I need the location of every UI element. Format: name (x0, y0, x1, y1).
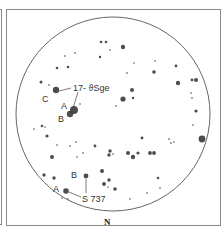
star (67, 111, 73, 117)
label-component-b: B (58, 114, 64, 124)
star (56, 67, 59, 70)
star (107, 186, 109, 188)
star (50, 155, 54, 159)
star (107, 178, 110, 181)
label-component-c: C (42, 94, 49, 104)
star (82, 152, 84, 154)
star (126, 72, 128, 74)
star (102, 182, 106, 186)
star (45, 134, 48, 137)
star (129, 198, 131, 200)
leader-line-17-sge-ab (73, 92, 78, 108)
field-of-view-circle (16, 17, 210, 211)
star (199, 136, 206, 143)
star (191, 97, 193, 99)
star (44, 126, 46, 128)
leader-line-s737-a (69, 192, 81, 197)
north-label: N (104, 217, 111, 227)
star (108, 149, 111, 152)
star (74, 52, 76, 54)
star (141, 137, 144, 140)
star (107, 153, 110, 156)
star (100, 169, 104, 173)
star (194, 78, 198, 82)
star (76, 156, 78, 158)
star (113, 187, 117, 191)
star (121, 45, 125, 49)
star (53, 87, 59, 93)
star (105, 41, 108, 44)
label-component-a: A (61, 101, 67, 111)
star (75, 141, 77, 143)
star (56, 144, 58, 146)
star (100, 41, 103, 44)
star (52, 176, 55, 179)
star (41, 125, 44, 128)
leader-line-17-sge-c (59, 88, 71, 91)
star (33, 128, 35, 130)
finder-chart: 17- ϑSge C A B S 737 B A N (0, 0, 224, 235)
star (67, 198, 69, 200)
star (48, 84, 50, 86)
star (94, 145, 97, 148)
label-s737: S 737 (82, 194, 106, 204)
star (146, 192, 148, 194)
star (133, 62, 135, 64)
star (154, 60, 156, 62)
star (63, 188, 69, 194)
star (192, 124, 194, 126)
star (190, 92, 192, 94)
star (148, 151, 152, 155)
star (109, 49, 111, 51)
star (152, 70, 156, 74)
star (120, 96, 125, 101)
star (126, 151, 130, 155)
star (69, 145, 71, 147)
star (61, 197, 63, 199)
star (130, 88, 134, 92)
star (173, 141, 175, 143)
star (132, 97, 134, 99)
star (67, 66, 70, 69)
star (194, 109, 197, 112)
star (175, 65, 178, 68)
star (115, 105, 117, 107)
star (170, 142, 172, 144)
label-s737-b: B (71, 170, 77, 180)
star (64, 55, 66, 57)
star (131, 155, 135, 159)
star (79, 103, 81, 105)
star (152, 151, 156, 155)
star (157, 177, 160, 180)
star (84, 174, 89, 179)
star (40, 81, 43, 84)
star (42, 173, 45, 176)
star (99, 56, 101, 58)
star (112, 153, 114, 155)
star (136, 151, 139, 154)
label-17-theta-sge: 17- ϑSge (73, 83, 109, 93)
label-s737-a: A (53, 184, 59, 194)
star (191, 79, 194, 82)
star (168, 138, 170, 140)
star (176, 81, 180, 85)
star (159, 187, 161, 189)
